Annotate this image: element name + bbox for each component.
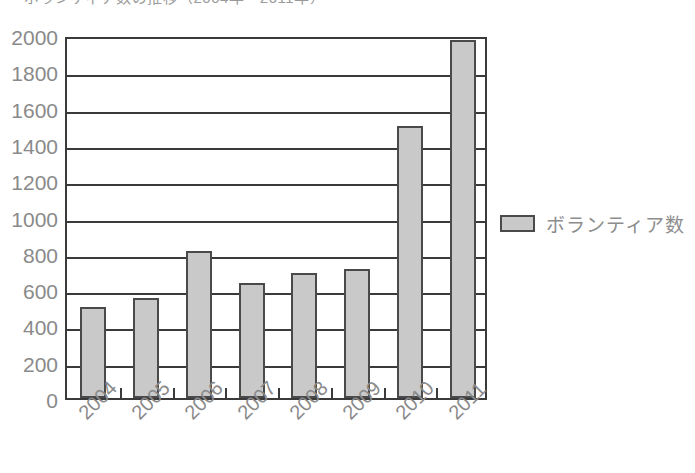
legend-color-swatch [500, 215, 535, 232]
y-tick-label: 1800 [2, 63, 58, 84]
y-tick-label: 1600 [2, 99, 58, 120]
x-axis-labels: 20042005200620072008200920102011 [65, 400, 487, 473]
y-tick-label: 0 [2, 390, 58, 411]
bar-2006 [186, 251, 212, 398]
y-tick-label: 400 [2, 317, 58, 338]
plot-area [65, 37, 487, 400]
y-tick-label: 800 [2, 244, 58, 265]
y-tick-label: 2000 [2, 27, 58, 48]
legend-label: ボランティア数 [546, 210, 685, 237]
bar-slot [384, 39, 437, 398]
y-tick-label: 1000 [2, 208, 58, 229]
legend: ボランティア数 [500, 210, 685, 237]
bar-2011 [450, 40, 476, 398]
y-tick-label: 1200 [2, 172, 58, 193]
bar-series [67, 39, 485, 398]
bar-slot [278, 39, 331, 398]
bar-slot [173, 39, 226, 398]
bar-slot [331, 39, 384, 398]
bar-slot [67, 39, 120, 398]
bar-slot [120, 39, 173, 398]
bar-slot [225, 39, 278, 398]
bar-chart: 2000180016001400120010008006004002000 20… [0, 0, 695, 473]
y-axis-labels: 2000180016001400120010008006004002000 [0, 37, 58, 400]
y-tick-label: 600 [2, 281, 58, 302]
y-tick-label: 1400 [2, 135, 58, 156]
y-tick-label: 200 [2, 353, 58, 374]
bar-slot [436, 39, 489, 398]
bar-2010 [397, 126, 423, 398]
